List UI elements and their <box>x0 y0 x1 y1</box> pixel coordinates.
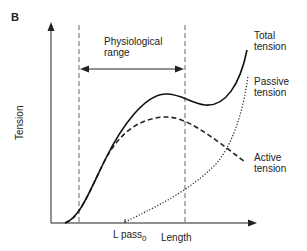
physiological-range-label: Physiological range <box>104 36 162 58</box>
panel-label: B <box>11 12 19 23</box>
active-label-line1: Active <box>254 152 286 163</box>
passive-label-line2: tension <box>254 87 289 98</box>
total-tension-curve <box>65 50 247 223</box>
lpass-label: L pass0 <box>113 229 147 241</box>
active-label-line2: tension <box>254 163 286 174</box>
x-axis-label: Length <box>161 232 192 243</box>
lpass-text: L pass <box>113 229 142 240</box>
range-label-line1: Physiological <box>104 36 162 47</box>
passive-label-line1: Passive <box>254 76 289 87</box>
x-axis-arrow-icon <box>248 220 257 227</box>
x-axis <box>51 220 257 227</box>
total-label-line1: Total <box>254 30 286 41</box>
y-axis-label: Tension <box>14 106 25 140</box>
range-arrow <box>80 66 184 73</box>
passive-tension-curve <box>125 75 248 222</box>
passive-tension-label: Passive tension <box>254 76 289 98</box>
tension-length-figure: B Physiological range Total tension Pass… <box>0 0 307 251</box>
arrow-right-icon <box>175 66 184 73</box>
active-tension-label: Active tension <box>254 152 286 174</box>
lpass-subscript: 0 <box>142 234 146 243</box>
total-tension-label: Total tension <box>254 30 286 52</box>
range-label-line2: range <box>104 47 162 58</box>
y-axis <box>48 22 55 223</box>
arrow-left-icon <box>80 66 89 73</box>
y-axis-arrow-icon <box>48 22 55 31</box>
total-label-line2: tension <box>254 41 286 52</box>
